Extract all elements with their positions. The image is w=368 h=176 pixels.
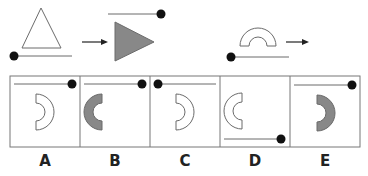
puzzle-diagram xyxy=(0,0,368,176)
option-a-label: A xyxy=(10,152,80,170)
filled-half-annulus-icon xyxy=(317,95,335,131)
option-d-label: D xyxy=(220,152,290,170)
option-e[interactable] xyxy=(294,81,357,132)
half-annulus-icon xyxy=(176,94,194,130)
question-arrow-icon xyxy=(286,39,309,45)
option-e-label: E xyxy=(290,152,360,170)
example-target xyxy=(108,10,166,62)
option-b[interactable] xyxy=(84,80,147,131)
transform-arrow-icon xyxy=(82,39,108,45)
half-annulus-icon xyxy=(224,93,242,129)
example-source xyxy=(10,8,73,61)
option-b-label: B xyxy=(80,152,150,170)
dot-icon xyxy=(277,135,286,144)
option-d[interactable] xyxy=(224,93,286,144)
dot-icon xyxy=(68,80,77,89)
dot-icon xyxy=(348,81,357,90)
option-a[interactable] xyxy=(14,80,77,131)
dot-icon xyxy=(154,80,163,89)
question-shape xyxy=(227,28,290,62)
half-annulus-icon xyxy=(36,94,54,130)
dot-icon xyxy=(138,80,147,89)
option-c[interactable] xyxy=(154,80,217,131)
option-c-label: C xyxy=(150,152,220,170)
dot-icon xyxy=(227,53,236,62)
dot-icon xyxy=(157,10,166,19)
filled-triangle-icon xyxy=(115,22,154,61)
half-annulus-icon xyxy=(240,28,276,46)
outlined-triangle-icon xyxy=(22,8,61,48)
dot-icon xyxy=(10,52,19,61)
filled-half-annulus-icon xyxy=(84,94,102,130)
